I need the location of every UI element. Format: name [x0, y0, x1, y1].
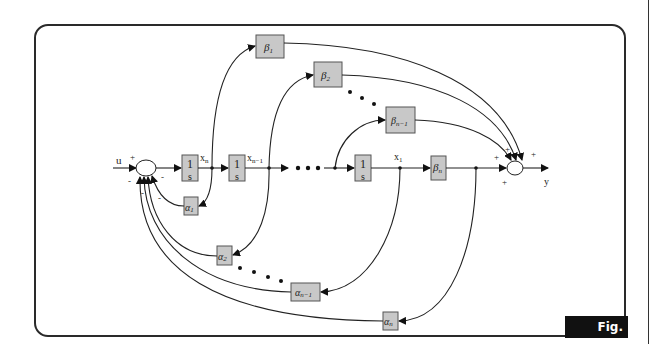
input-summing-junction — [136, 160, 156, 176]
gain-alpha-1: α1 — [184, 197, 198, 215]
svg-text:-: - — [158, 193, 161, 203]
gain-alpha-n-minus-1: αn−1 — [291, 283, 320, 301]
svg-text:-: - — [161, 172, 164, 182]
block-diagram: 1 s xn 1 s xn−1 1 s x1 βn u + y + + + + … — [0, 0, 662, 360]
integrator-block-2: 1 s — [229, 155, 245, 182]
svg-text:+: + — [130, 152, 135, 162]
svg-text:+: + — [502, 177, 507, 187]
svg-text:1: 1 — [360, 157, 366, 171]
main-line-ellipsis — [296, 166, 320, 170]
gain-beta-n: βn — [431, 156, 446, 180]
gain-beta-1: β1 — [256, 35, 284, 58]
svg-text:+: + — [531, 149, 536, 159]
svg-text:s: s — [235, 171, 239, 182]
svg-text:u: u — [116, 154, 122, 166]
integrator-block-1: 1 s — [182, 155, 198, 182]
gain-beta-n-minus-1: βn−1 — [386, 107, 415, 133]
gain-beta-2: β2 — [314, 62, 342, 87]
alpha-ellipsis — [238, 266, 283, 283]
svg-text:xn: xn — [200, 152, 209, 165]
svg-text:1: 1 — [187, 157, 193, 171]
integrator-block-3: 1 s — [355, 155, 371, 182]
gain-alpha-2: α2 — [217, 246, 232, 265]
svg-text:+: + — [494, 152, 499, 162]
output-summing-junction — [507, 161, 523, 175]
svg-text:x1: x1 — [394, 151, 403, 164]
svg-text:1: 1 — [234, 157, 240, 171]
svg-text:y: y — [544, 176, 549, 187]
svg-text:s: s — [188, 171, 192, 182]
gain-alpha-n: αn — [383, 312, 398, 330]
svg-text:xn−1: xn−1 — [247, 152, 263, 165]
beta-ellipsis — [348, 90, 376, 106]
svg-text:s: s — [361, 171, 365, 182]
svg-text:-: - — [141, 188, 144, 198]
figure-label: Fig. E.12 — [565, 316, 628, 338]
svg-text:-: - — [128, 176, 131, 186]
